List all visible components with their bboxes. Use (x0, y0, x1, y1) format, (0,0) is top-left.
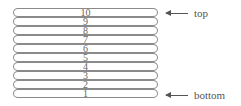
top-pointer: top (166, 7, 208, 19)
stack-item-1: 1 (13, 89, 158, 98)
bottom-pointer: bottom (166, 89, 225, 101)
arrow-left-icon (166, 13, 188, 14)
top-label: top (194, 7, 208, 19)
bottom-label: bottom (194, 89, 225, 101)
arrow-left-icon (166, 95, 188, 96)
stack: 10 9 8 7 6 5 4 3 2 1 (13, 8, 158, 99)
stack-item-label: 1 (83, 90, 88, 98)
